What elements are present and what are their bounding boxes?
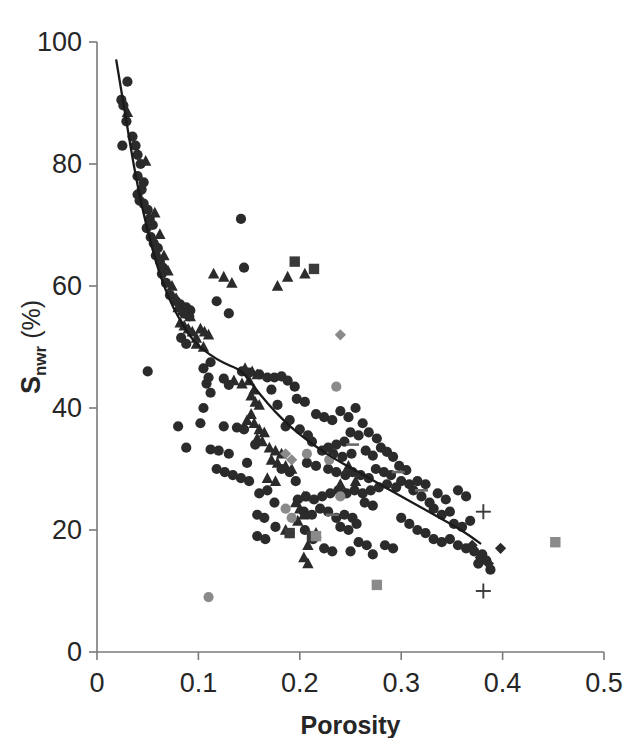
marker-circle xyxy=(266,385,276,395)
marker-triangle xyxy=(218,271,229,282)
marker-circle xyxy=(372,433,382,443)
marker-circle xyxy=(420,479,430,489)
marker-circle xyxy=(453,485,463,495)
marker-circle xyxy=(205,388,215,398)
marker-circle xyxy=(181,443,191,453)
marker-circle xyxy=(214,446,224,456)
marker-triangle xyxy=(272,280,283,291)
marker-circle xyxy=(260,534,270,544)
marker-circle xyxy=(404,519,414,529)
marker-circle xyxy=(335,406,345,416)
marker-square xyxy=(284,528,294,538)
x-tick-label: 0.5 xyxy=(585,668,623,698)
marker-circle xyxy=(351,519,361,529)
marker-circle xyxy=(239,424,249,434)
x-tick-label: 0 xyxy=(89,668,104,698)
marker-circle xyxy=(461,491,471,501)
marker-circle xyxy=(219,421,229,431)
marker-circle xyxy=(270,522,280,532)
marker-circle xyxy=(388,452,398,462)
x-axis-title: Porosity xyxy=(300,711,400,738)
y-axis-title-unit: (%) xyxy=(17,300,45,346)
marker-circle xyxy=(445,507,455,517)
marker-circle xyxy=(195,418,205,428)
marker-square xyxy=(550,537,560,547)
marker-square xyxy=(372,580,382,590)
marker-circle xyxy=(302,449,312,459)
marker-circle xyxy=(269,497,279,507)
marker-circle xyxy=(143,366,153,376)
marker-circle xyxy=(335,491,345,501)
marker-circle xyxy=(287,513,297,523)
marker-circle xyxy=(281,504,291,514)
y-tick-label: 100 xyxy=(37,27,82,57)
y-axis-title-subscript: nwr xyxy=(31,345,50,376)
marker-circle xyxy=(236,214,246,224)
marker-circle xyxy=(239,263,249,273)
marker-circle xyxy=(416,491,426,501)
marker-circle xyxy=(433,488,443,498)
marker-circle xyxy=(242,458,252,468)
y-axis-title-base: S xyxy=(16,376,46,394)
marker-circle xyxy=(368,450,378,460)
marker-circle xyxy=(117,141,127,151)
marker-circle xyxy=(201,379,211,389)
marker-plus xyxy=(476,504,491,519)
marker-circle xyxy=(350,403,360,413)
marker-circle xyxy=(122,77,132,87)
marker-circle xyxy=(358,418,368,428)
marker-circle xyxy=(198,403,208,413)
marker-circle xyxy=(212,296,222,306)
y-tick-label: 60 xyxy=(52,271,82,301)
marker-square xyxy=(290,256,300,266)
marker-plus xyxy=(476,584,491,599)
marker-circle xyxy=(327,546,337,556)
marker-circle xyxy=(331,467,341,477)
data-points xyxy=(116,77,560,603)
marker-circle xyxy=(331,382,341,392)
marker-circle xyxy=(380,540,390,550)
marker-circle xyxy=(173,421,183,431)
marker-circle xyxy=(445,534,455,544)
x-tick-label: 0.4 xyxy=(484,668,522,698)
marker-circle xyxy=(291,476,301,486)
marker-triangle xyxy=(226,277,237,288)
y-axis-title: Snwr (%) xyxy=(16,300,50,394)
marker-circle xyxy=(224,449,234,459)
marker-circle xyxy=(401,465,411,475)
marker-circle xyxy=(181,339,191,349)
svg-text:Snwr (%): Snwr (%) xyxy=(16,300,50,394)
marker-circle xyxy=(302,458,312,468)
marker-circle xyxy=(343,525,353,535)
marker-circle xyxy=(364,427,374,437)
marker-triangle xyxy=(282,271,293,282)
marker-circle xyxy=(368,549,378,559)
marker-diamond xyxy=(335,329,346,340)
marker-circle xyxy=(345,546,355,556)
plot-canvas: 02040608010000.10.20.30.40.5 PorositySnw… xyxy=(0,0,643,738)
marker-circle xyxy=(212,464,222,474)
marker-circle xyxy=(203,592,213,602)
marker-circle xyxy=(346,449,356,459)
marker-square xyxy=(311,531,321,541)
marker-circle xyxy=(420,528,430,538)
marker-circle xyxy=(368,501,378,511)
marker-circle xyxy=(441,494,451,504)
marker-circle xyxy=(254,488,264,498)
y-tick-label: 0 xyxy=(67,637,82,667)
marker-circle xyxy=(343,412,353,422)
marker-circle xyxy=(224,308,234,318)
x-tick-label: 0.2 xyxy=(281,668,319,698)
marker-circle xyxy=(362,540,372,550)
marker-circle xyxy=(327,415,337,425)
y-tick-label: 80 xyxy=(52,149,82,179)
marker-circle xyxy=(300,397,310,407)
marker-circle xyxy=(311,461,321,471)
marker-circle xyxy=(354,430,364,440)
marker-circle xyxy=(465,516,475,526)
marker-circle xyxy=(198,363,208,373)
marker-square xyxy=(309,264,319,274)
marker-circle xyxy=(396,513,406,523)
axes: 02040608010000.10.20.30.40.5 xyxy=(37,27,623,698)
marker-circle xyxy=(290,382,300,392)
